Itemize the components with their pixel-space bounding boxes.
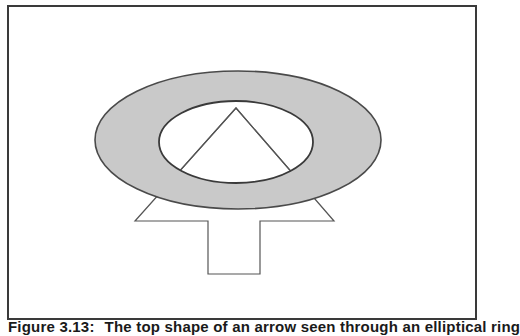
- figure-caption-number: Figure 3.13:: [8, 318, 95, 335]
- figure-caption: Figure 3.13:The top shape of an arrow se…: [8, 318, 520, 336]
- figure-caption-text: The top shape of an arrow seen through a…: [105, 318, 520, 335]
